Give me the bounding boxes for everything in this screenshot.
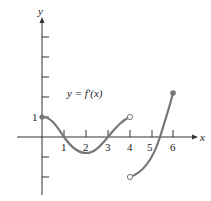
curve-label: y = f'(x) — [66, 87, 103, 100]
closed-dot-start — [39, 114, 44, 119]
x-axis-label: x — [199, 131, 205, 143]
open-dot-piece1-end — [127, 114, 132, 119]
graph: y x 1 1 2 3 4 5 6 y = f'(x) — [0, 0, 211, 201]
closed-dot-end — [170, 90, 176, 96]
x-tick-label-3: 3 — [105, 141, 111, 153]
x-ticks — [64, 130, 173, 137]
open-dot-piece2-start — [127, 174, 132, 179]
x-axis-arrow-icon — [192, 135, 198, 140]
x-tick-label-4: 4 — [127, 141, 133, 153]
x-tick-label-6: 6 — [170, 141, 176, 153]
x-tick-label-5: 5 — [147, 141, 153, 153]
y-tick-label-1: 1 — [32, 111, 38, 123]
x-tick-label-1: 1 — [61, 141, 67, 153]
x-tick-label-2: 2 — [83, 141, 89, 153]
y-ticks — [42, 37, 49, 177]
y-axis-label: y — [37, 5, 43, 17]
y-axis-arrow-icon — [40, 17, 45, 23]
